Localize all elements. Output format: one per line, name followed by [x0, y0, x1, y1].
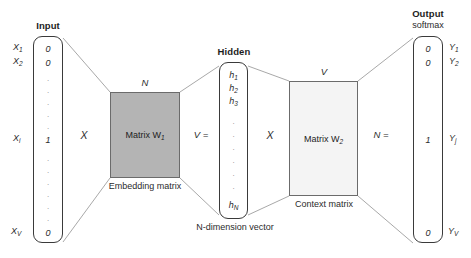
multiply-operator-1: X [72, 129, 96, 141]
hidden-ellipsis-2: . [220, 131, 247, 139]
embedding-caption: Embedding matrix [105, 181, 185, 191]
hidden-value-hn: hN [220, 201, 247, 210]
hidden-ellipsis-4: . [220, 157, 247, 165]
multiply-operator-2: X [258, 129, 282, 141]
input-label-xi-sub: i [19, 137, 20, 144]
input-ellipsis-bot4: . [34, 191, 62, 199]
input-ellipsis-top4: . [34, 111, 62, 119]
hidden-value-h2: h2 [220, 84, 247, 93]
context-right-dimension: N = [365, 129, 397, 140]
hidden-hn-base: h [229, 200, 234, 210]
context-matrix-subscript: 2 [339, 138, 343, 145]
output-label-yv: YV [448, 227, 458, 236]
output-header: Output [398, 8, 458, 19]
input-label-xi: Xi [13, 134, 20, 143]
input-label-x2-sub: 2 [19, 60, 23, 67]
hidden-value-h1: h1 [220, 71, 247, 80]
input-ellipsis-top5: . [34, 123, 62, 131]
input-value-3: 0 [34, 229, 62, 238]
hidden-ellipsis-1: . [220, 118, 247, 126]
output-label-y2: Y2 [449, 57, 459, 66]
context-matrix-name: Matrix W [304, 134, 340, 144]
hidden-left-dimension: V = [186, 129, 216, 140]
hidden-header: Hidden [204, 46, 264, 57]
input-label-xv-sub: V [17, 230, 21, 237]
input-value-1: 0 [34, 59, 62, 68]
output-label-yj-sub: j [455, 137, 456, 144]
input-ellipsis-bot5: . [34, 203, 62, 211]
output-value-0: 0 [414, 45, 442, 54]
hidden-h3-sub: 3 [234, 100, 238, 107]
output-label-yv-sub: V [454, 230, 458, 237]
output-value-1: 0 [414, 59, 442, 68]
input-ellipsis-top: . [34, 75, 62, 83]
embedding-top-dimension: N [120, 77, 170, 88]
input-ellipsis-top3: . [34, 99, 62, 107]
output-value-3: 0 [414, 229, 442, 238]
input-ellipsis-bot3: . [34, 179, 62, 187]
embedding-matrix-name: Matrix W [125, 130, 161, 140]
hidden-vector[interactable]: h1 h2 h3 . . . . . . hN [219, 62, 248, 219]
context-matrix[interactable]: Matrix W2 [289, 81, 358, 196]
hidden-caption: N-dimension vector [185, 222, 285, 232]
input-vector[interactable]: 0 0 . . . . . 1 . . . . . . 0 [33, 36, 63, 243]
input-value-0: 0 [34, 45, 62, 54]
embedding-matrix-subscript: 1 [161, 134, 165, 141]
input-ellipsis-bot2: . [34, 167, 62, 175]
diagram-canvas: Input 0 0 . . . . . 1 . . . . . . 0 X1 X… [0, 0, 471, 258]
context-caption: Context matrix [283, 199, 365, 209]
hidden-h1-sub: 1 [234, 74, 238, 81]
output-label-y1: Y1 [449, 43, 459, 52]
input-label-x1: X1 [13, 43, 23, 52]
hidden-ellipsis-5: . [220, 170, 247, 178]
output-value-2: 1 [414, 136, 442, 145]
hidden-h2-sub: 2 [234, 87, 238, 94]
output-vector[interactable]: 0 0 1 0 [413, 36, 443, 243]
hidden-hn-sub: N [234, 204, 239, 211]
output-subheader: softmax [398, 20, 458, 30]
context-matrix-label: Matrix W2 [304, 134, 343, 144]
output-label-y1-sub: 1 [455, 46, 459, 53]
input-label-xv: XV [11, 227, 21, 236]
embedding-matrix[interactable]: Matrix W1 [110, 92, 180, 178]
input-header: Input [18, 20, 78, 31]
input-label-x2: X2 [13, 57, 23, 66]
input-ellipsis-top2: . [34, 87, 62, 95]
hidden-value-h3: h3 [220, 97, 247, 106]
hidden-ellipsis-3: . [220, 144, 247, 152]
input-value-2: 1 [34, 136, 62, 145]
input-ellipsis-bot: . [34, 155, 62, 163]
embedding-matrix-label: Matrix W1 [125, 130, 164, 140]
output-label-y2-sub: 2 [455, 60, 459, 67]
output-label-yj: Yj [449, 134, 456, 143]
input-label-x1-sub: 1 [19, 46, 23, 53]
input-ellipsis-bot6: . [34, 215, 62, 223]
hidden-ellipsis-6: . [220, 183, 247, 191]
context-top-dimension: V [299, 66, 349, 77]
